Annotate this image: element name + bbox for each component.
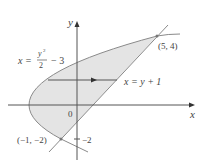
parabola-lhs: x =: [17, 55, 32, 66]
y-axis-label: y: [67, 16, 73, 28]
y-tick-neg2-label: −2: [82, 135, 92, 145]
shaded-region: [29, 36, 157, 139]
point-neg1-neg2: [60, 138, 63, 141]
origin-label: 0: [68, 109, 73, 119]
point-5-4: [156, 35, 159, 38]
parabola-numerator: y: [37, 49, 42, 58]
point-5-4-label: (5, 4): [158, 41, 178, 51]
x-axis-label: x: [189, 108, 195, 120]
line-equation-label: x = y + 1: [123, 76, 161, 87]
parabola-denominator: 2: [39, 61, 43, 70]
point-neg1-neg2-label: (−1, −2): [17, 135, 47, 145]
x-axis-arrowhead-icon: [189, 103, 195, 108]
region-diagram: y x 0 (5, 4) (−1, −2) −2 x = y + 1 x = y…: [0, 0, 203, 168]
parabola-rhs: − 3: [51, 55, 64, 66]
parabola-exponent: 2: [43, 48, 46, 53]
y-axis-arrowhead-icon: [75, 21, 80, 27]
parabola-equation-label: x = y 2 2 − 3: [17, 48, 64, 70]
